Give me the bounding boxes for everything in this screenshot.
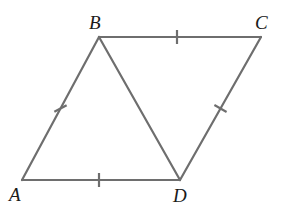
- vertex-label-B: B: [89, 12, 101, 33]
- tick-AB: [54, 105, 66, 112]
- segments-group: [22, 37, 261, 180]
- vertex-label-C: C: [255, 12, 268, 33]
- segment-BD: [99, 37, 180, 180]
- geometry-canvas: ABCD: [0, 0, 285, 212]
- vertex-label-D: D: [172, 185, 187, 206]
- vertex-label-A: A: [7, 184, 21, 205]
- tick-CD: [214, 105, 226, 112]
- geometry-figure: ABCD: [0, 0, 285, 212]
- vertex-labels-group: ABCD: [7, 12, 268, 206]
